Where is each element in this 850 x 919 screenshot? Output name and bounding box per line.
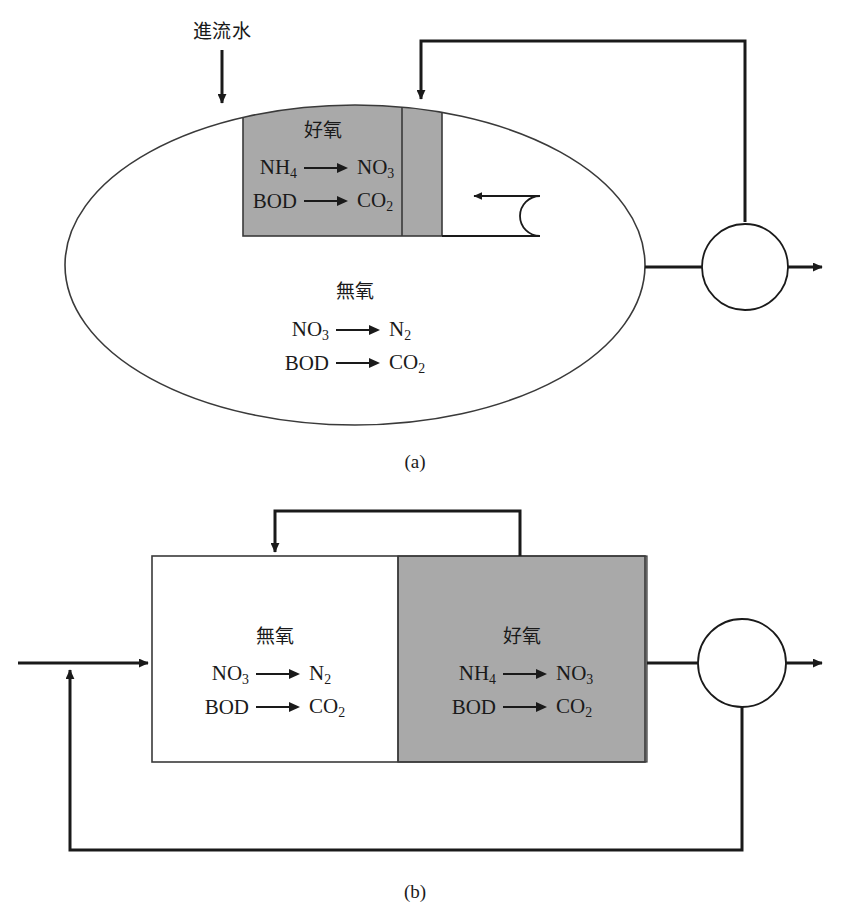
clarifier-circle-a (702, 224, 788, 310)
return-sludge-loop-a (421, 41, 745, 222)
internal-recycle-uturn-a (442, 196, 540, 236)
panel-a-aerobic-zone (243, 100, 442, 236)
panel-b (18, 511, 822, 850)
figure-root: 進流水 好氧 NH4 NO3 BOD CO2 無氧 NO3 N2 BOD CO2… (0, 0, 850, 919)
aerobic-zone-rect-b (398, 556, 647, 762)
process-diagram-svg (0, 0, 850, 919)
panel-a (65, 41, 822, 425)
internal-recycle-loop-b (275, 511, 520, 556)
aerobic-zone-rect (243, 100, 442, 236)
clarifier-circle-b (698, 619, 786, 707)
